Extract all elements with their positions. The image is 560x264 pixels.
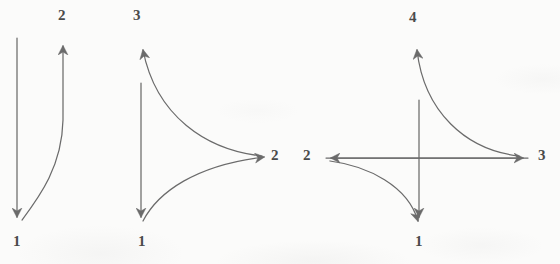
state-label-d1-2: 2 [58,8,66,23]
state-label-d2-2: 2 [271,148,279,163]
state-label-d2-1: 1 [138,234,146,249]
curved-arrow-state2-to-state3 [143,50,262,156]
state-label-d3-4: 4 [409,10,417,25]
curved-arrow-state1-to-state2 [22,46,63,220]
diagram-vector-layer [0,0,560,264]
state-label-d1-1: 1 [13,234,21,249]
curved-arrow-state1-to-state2 [143,157,264,221]
state-label-d3-1: 1 [415,234,423,249]
figure-canvas: 1 2 1 3 2 1 4 2 3 [0,0,560,264]
strokes-layer [17,38,528,221]
state-label-d3-3: 3 [538,148,546,163]
state-label-d3-2: 2 [303,148,311,163]
curved-arrow-state2-to-state1 [330,161,418,221]
state-label-d2-3: 3 [133,8,141,23]
curved-arrow-state3-to-state4 [417,50,519,156]
